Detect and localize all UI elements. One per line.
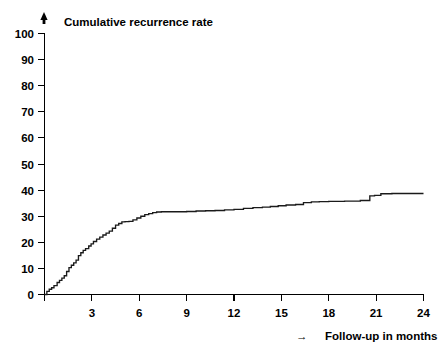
x-tick-label: 15 xyxy=(275,307,288,319)
y-tick-label: 60 xyxy=(21,132,34,144)
y-tick-label: 40 xyxy=(21,185,34,197)
x-tick-label: 12 xyxy=(228,307,241,319)
y-axis-ticks xyxy=(38,34,45,295)
recurrence-curve-line xyxy=(45,193,424,294)
x-tick-label: 3 xyxy=(89,307,95,319)
y-tick-label: 50 xyxy=(21,159,34,171)
y-tick-label: 80 xyxy=(21,80,34,92)
x-tick-label: 24 xyxy=(417,307,430,319)
y-tick-label: 90 xyxy=(21,54,34,66)
y-tick-label: 0 xyxy=(28,289,34,301)
x-tick-label: 18 xyxy=(322,307,335,319)
y-axis-arrow-stem-icon xyxy=(43,18,46,24)
y-tick-label: 100 xyxy=(15,28,34,40)
x-axis-tick-labels: 3 6 9 12 15 18 21 24 xyxy=(89,307,431,319)
cumulative-recurrence-chart: 100 90 80 70 60 50 40 30 20 10 0 3 xyxy=(0,0,447,359)
y-tick-label: 20 xyxy=(21,237,34,249)
y-tick-label: 70 xyxy=(21,106,34,118)
y-tick-label: 30 xyxy=(21,211,34,223)
x-axis-ticks xyxy=(45,295,424,302)
chart-title: Cumulative recurrence rate xyxy=(64,16,213,28)
x-axis-caption-arrow-icon: → xyxy=(296,330,308,342)
y-tick-label: 10 xyxy=(21,263,34,275)
x-tick-label: 9 xyxy=(183,307,189,319)
y-axis-tick-labels: 100 90 80 70 60 50 40 30 20 10 0 xyxy=(15,28,34,301)
x-tick-label: 21 xyxy=(370,307,383,319)
x-axis-caption: Follow-up in months xyxy=(325,330,437,342)
x-tick-label: 6 xyxy=(136,307,142,319)
chart-figure: 100 90 80 70 60 50 40 30 20 10 0 3 xyxy=(0,0,447,359)
